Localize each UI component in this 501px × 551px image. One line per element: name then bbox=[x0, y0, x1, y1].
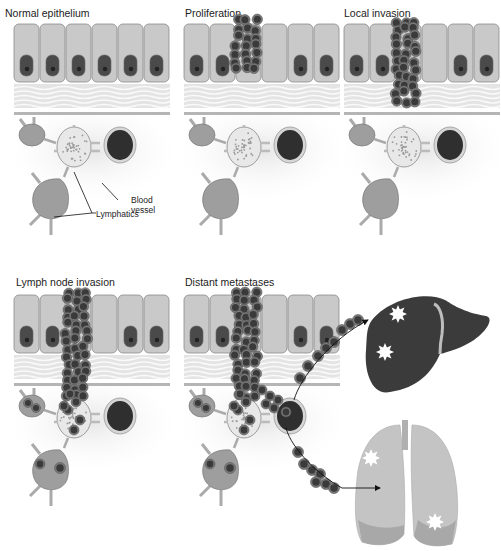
nucleolus bbox=[195, 67, 199, 71]
epithelial-cell bbox=[344, 24, 369, 82]
lymph-speckle bbox=[408, 155, 410, 157]
tumor-cell-nucleus bbox=[67, 391, 74, 398]
metastasis-lesion-icon bbox=[362, 449, 380, 467]
tumor-cell bbox=[269, 403, 279, 413]
tumor-cell-nucleus bbox=[207, 461, 214, 468]
tumor-cell bbox=[249, 63, 259, 73]
nucleolus bbox=[299, 67, 303, 71]
tumor-cell-nucleus bbox=[300, 460, 307, 467]
lymph-speckle bbox=[401, 144, 403, 146]
nucleolus bbox=[51, 67, 55, 71]
lymph-speckle bbox=[405, 150, 407, 152]
tumor-cell bbox=[409, 30, 419, 40]
lymph-speckle bbox=[406, 139, 408, 141]
tumor-cell bbox=[295, 373, 306, 384]
tumor-cell bbox=[241, 397, 251, 407]
tumor-cell-nucleus bbox=[226, 464, 233, 471]
epithelial-cell-body bbox=[262, 24, 287, 82]
lymph-speckle bbox=[403, 146, 405, 148]
lymph-speckle bbox=[74, 412, 76, 414]
lymph-speckle bbox=[406, 131, 408, 133]
tumor-cell-nucleus bbox=[312, 478, 319, 485]
epithelial-cell bbox=[14, 24, 39, 82]
lymph-speckle bbox=[415, 150, 417, 152]
tumor-cell-nucleus bbox=[393, 97, 400, 104]
lymph-speckle bbox=[244, 423, 246, 425]
tumor-cell bbox=[194, 399, 203, 408]
lymph-speckle bbox=[73, 408, 75, 410]
tumor-cell bbox=[311, 477, 322, 488]
lymph-speckle bbox=[236, 420, 238, 422]
lymph-speckle bbox=[243, 144, 245, 146]
tumor-cell-nucleus bbox=[411, 98, 418, 105]
lymph-speckle bbox=[237, 148, 239, 150]
tumor-cell bbox=[281, 407, 291, 417]
nucleolus bbox=[325, 67, 329, 71]
lymph-speckle bbox=[398, 149, 400, 151]
tumor-cell bbox=[229, 401, 239, 411]
tumor-cell-nucleus bbox=[232, 42, 239, 49]
cell-nucleus bbox=[124, 326, 137, 347]
cell-nucleus bbox=[454, 55, 467, 76]
tumor-cell-nucleus bbox=[56, 464, 63, 471]
tumor-cell-nucleus bbox=[253, 49, 260, 56]
lymph-speckle bbox=[392, 141, 394, 143]
epithelial-cell bbox=[288, 295, 313, 353]
cell-nucleus bbox=[350, 55, 363, 76]
lymph-speckle bbox=[407, 151, 409, 153]
cell-nucleus bbox=[72, 55, 85, 76]
tumor-cell-nucleus bbox=[275, 397, 282, 404]
lymph-speckle bbox=[69, 145, 71, 147]
lungs bbox=[355, 420, 457, 546]
tumor-cell bbox=[411, 46, 421, 56]
cell-nucleus bbox=[20, 55, 33, 76]
cell-nucleus bbox=[376, 55, 389, 76]
lymph-speckle bbox=[394, 136, 396, 138]
lymph-speckle bbox=[75, 408, 77, 410]
lymph-speckle bbox=[233, 151, 235, 153]
cell-nucleus bbox=[20, 326, 33, 347]
lymph-speckle bbox=[414, 155, 416, 157]
tumor-cell-nucleus bbox=[243, 42, 250, 49]
lymph-speckle bbox=[242, 139, 244, 141]
cell-nucleus bbox=[216, 326, 229, 347]
tumor-cell-nucleus bbox=[412, 67, 419, 74]
lymph-speckle bbox=[86, 141, 88, 143]
tumor-cell-nucleus bbox=[412, 90, 419, 97]
tumor-cell-nucleus bbox=[73, 399, 80, 406]
cell-nucleus bbox=[294, 326, 307, 347]
cell-nucleus bbox=[46, 55, 59, 76]
tumor-cell bbox=[410, 97, 420, 107]
tumor-cell-nucleus bbox=[77, 417, 84, 424]
tumor-cell-nucleus bbox=[195, 400, 201, 406]
epithelial-cell bbox=[262, 24, 287, 82]
lymph-speckle bbox=[236, 427, 238, 429]
nucleolus bbox=[299, 338, 303, 342]
cell-nucleus bbox=[98, 55, 111, 76]
tumor-cell bbox=[70, 333, 80, 343]
lymph-speckle bbox=[243, 414, 245, 416]
tumor-cell bbox=[249, 357, 259, 367]
blood-vessel bbox=[104, 398, 136, 434]
tumor-cell-nucleus bbox=[64, 319, 71, 326]
lymph-vessel-stub bbox=[30, 215, 40, 225]
tumor-cell bbox=[293, 447, 304, 458]
tumor-cell-nucleus bbox=[283, 409, 290, 416]
blood-vessel-lumen bbox=[107, 130, 133, 160]
epithelial-cell-body bbox=[262, 295, 287, 353]
tumor-cell-nucleus bbox=[314, 352, 321, 359]
lymph-speckle bbox=[234, 149, 236, 151]
tumor-cell-nucleus bbox=[233, 65, 240, 72]
nucleolus bbox=[485, 67, 489, 71]
blood-vessel-lumen bbox=[277, 130, 303, 160]
lymph-speckle bbox=[60, 420, 62, 422]
epithelial-cell bbox=[422, 24, 447, 82]
metastasis-lesion-icon bbox=[389, 305, 407, 323]
epithelial-cell bbox=[118, 24, 143, 82]
tumor-cell bbox=[231, 333, 241, 343]
tumor-cell-nucleus bbox=[322, 344, 329, 351]
tumor-cell-nucleus bbox=[233, 335, 240, 342]
tumor-cell-nucleus bbox=[251, 328, 258, 335]
lymph-vessel-stub bbox=[360, 215, 370, 225]
lymph-speckle bbox=[410, 159, 412, 161]
